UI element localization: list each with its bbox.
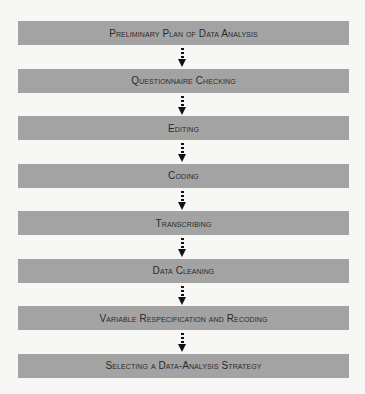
arrow-down-icon [178, 249, 186, 257]
arrow-down-icon [178, 59, 186, 67]
arrow-down-icon [178, 154, 186, 162]
data-preparation-flowchart: Preliminary Plan of Data Analysis Questi… [18, 21, 349, 378]
step-label: Data Cleaning [153, 265, 215, 276]
step-transcribing: Transcribing [18, 211, 349, 235]
step-preliminary-plan: Preliminary Plan of Data Analysis [18, 21, 349, 45]
arrow-down-icon [178, 297, 186, 305]
step-variable-respecification: Variable Respecification and Recoding [18, 306, 349, 330]
dotted-arrow-connector [18, 140, 349, 164]
dotted-arrow-connector [18, 283, 349, 307]
dotted-arrow-connector [18, 330, 349, 354]
step-selecting-strategy: Selecting a Data-Analysis Strategy [18, 354, 349, 378]
step-editing: Editing [18, 116, 349, 140]
step-label: Questionnaire Checking [131, 75, 235, 86]
dotted-arrow-connector [18, 235, 349, 259]
step-label: Preliminary Plan of Data Analysis [109, 28, 258, 39]
dotted-arrow-connector [18, 93, 349, 117]
step-data-cleaning: Data Cleaning [18, 259, 349, 283]
step-label: Coding [168, 170, 199, 181]
step-label: Variable Respecification and Recoding [100, 313, 268, 324]
arrow-down-icon [178, 202, 186, 210]
dotted-arrow-connector [18, 45, 349, 69]
dotted-arrow-connector [18, 188, 349, 212]
arrow-down-icon [178, 107, 186, 115]
step-label: Selecting a Data-Analysis Strategy [105, 360, 261, 371]
step-coding: Coding [18, 164, 349, 188]
arrow-down-icon [178, 344, 186, 352]
step-label: Editing [168, 123, 199, 134]
step-questionnaire-checking: Questionnaire Checking [18, 69, 349, 93]
step-label: Transcribing [156, 218, 212, 229]
